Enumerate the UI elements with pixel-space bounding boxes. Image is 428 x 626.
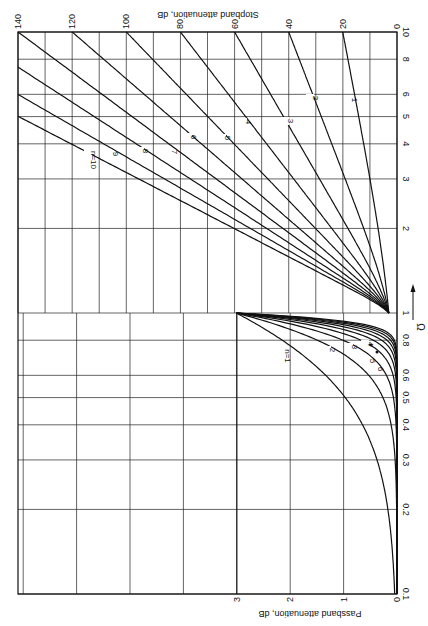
stopband-tick-label: 100 bbox=[121, 14, 131, 29]
passband-curve-n9 bbox=[236, 313, 397, 594]
stopband-curve-n5 bbox=[126, 32, 389, 313]
passband-curve-n5 bbox=[236, 313, 397, 594]
stopband-tick-label: 20 bbox=[338, 19, 348, 29]
curve-label: 6 bbox=[376, 367, 385, 372]
passband-tick-label: 0 bbox=[392, 597, 402, 602]
passband-tick-label: 3 bbox=[232, 597, 242, 602]
omega-tick-label: 4 bbox=[401, 141, 411, 146]
omega-tick-label: 0.1 bbox=[401, 588, 411, 601]
passband-curve-n10 bbox=[236, 313, 397, 594]
omega-tick-label: 0.5 bbox=[401, 391, 411, 404]
omega-tick-label: 0.3 bbox=[401, 454, 411, 467]
omega-tick-label: 3 bbox=[401, 176, 411, 181]
passband-curve-n6 bbox=[236, 313, 397, 594]
curve-label: 8 bbox=[141, 149, 150, 154]
curve-label: 1 bbox=[350, 98, 359, 103]
stopband-tick-label: 140 bbox=[13, 14, 23, 29]
stopband-curve-n2 bbox=[289, 32, 389, 313]
stopband-curve-n3 bbox=[235, 32, 389, 313]
omega-tick-label: 10 bbox=[401, 27, 411, 37]
omega-tick-label: 0.8 bbox=[401, 334, 411, 347]
curve-label: 5 bbox=[223, 136, 232, 141]
stopband-tick-label: 40 bbox=[284, 19, 294, 29]
curve-label: 5 bbox=[368, 359, 377, 364]
passband-axis-title: Passband attenuation, dB bbox=[258, 609, 361, 619]
passband-curve-n7 bbox=[236, 313, 397, 594]
stopband-tick-label: 0 bbox=[392, 24, 402, 29]
curve-label: 6 bbox=[189, 135, 198, 140]
stopband-tick-label: 120 bbox=[67, 14, 77, 29]
omega-tick-label: 0.6 bbox=[401, 369, 411, 382]
curve-label: n=10 bbox=[89, 151, 98, 170]
omega-tick-label: 2 bbox=[401, 226, 411, 231]
omega-symbol: Ω bbox=[415, 323, 426, 331]
stopband-curve-n1 bbox=[343, 32, 389, 313]
passband-curve-n2 bbox=[236, 313, 397, 594]
curve-label: 9 bbox=[111, 152, 120, 157]
curve-label: 3 bbox=[350, 345, 359, 350]
passband-curve-n8 bbox=[236, 313, 397, 594]
stopband-curve-n4 bbox=[180, 32, 389, 313]
passband-curve-n4 bbox=[236, 313, 397, 594]
curve-label: 2 bbox=[311, 96, 320, 101]
stopband-curve-n7 bbox=[18, 32, 389, 313]
curve-label: 4 bbox=[244, 120, 253, 125]
omega-tick-label: 1 bbox=[401, 310, 411, 315]
omega-tick-label: 0.4 bbox=[401, 419, 411, 432]
omega-tick-label: 8 bbox=[401, 57, 411, 62]
curve-label: 2 bbox=[328, 348, 337, 353]
passband-tick-label: 2 bbox=[285, 597, 295, 602]
passband-curve-n1 bbox=[236, 313, 395, 594]
butterworth-attenuation-chart: 02040608010012014001230.10.20.30.40.50.6… bbox=[0, 0, 428, 626]
curve-label: 7 bbox=[170, 150, 179, 155]
omega-tick-label: 5 bbox=[401, 114, 411, 119]
omega-tick-label: 0.2 bbox=[401, 503, 411, 516]
stopband-curve-n6 bbox=[72, 32, 389, 313]
curve-label: 3 bbox=[286, 119, 295, 124]
passband-tick-label: 1 bbox=[339, 597, 349, 602]
passband-curve-n3 bbox=[236, 313, 397, 594]
curve-label: n=1 bbox=[283, 349, 292, 363]
omega-tick-label: 6 bbox=[401, 92, 411, 97]
stopband-axis-title: Stopband attenuation, dB bbox=[157, 10, 259, 20]
